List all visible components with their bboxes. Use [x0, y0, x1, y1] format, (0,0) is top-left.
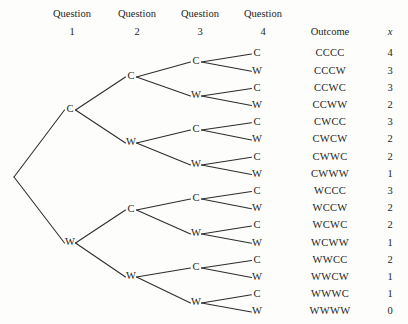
edge-l3-leaf-7 — [202, 165, 252, 174]
outcome-value: CCWW — [312, 99, 347, 110]
node-q4-9: W — [252, 202, 262, 213]
outcome-value: CCCC — [315, 47, 344, 58]
node-q4-6: C — [253, 151, 260, 162]
header-question-1: Question — [53, 8, 92, 19]
node-q3-1: W — [191, 89, 201, 100]
edge-l2-l3-4 — [137, 199, 191, 210]
edge-l2-l3-6 — [137, 268, 191, 277]
x-value: 2 — [387, 133, 392, 144]
x-value-column: 4332322132212110 — [387, 47, 393, 316]
edge-l2-l3-3 — [137, 143, 191, 165]
edge-l2-l3-5 — [137, 210, 191, 234]
edge-l3-leaf-11 — [202, 234, 252, 243]
node-q1-1: W — [65, 236, 75, 247]
node-q4-3: W — [252, 99, 262, 110]
node-q4-15: W — [252, 305, 262, 316]
node-q1-0: C — [66, 103, 73, 114]
node-q4-8: C — [253, 185, 260, 196]
edge-l3-leaf-9 — [202, 199, 252, 209]
node-q3-2: C — [192, 123, 199, 134]
edge-l1-l2-0 — [76, 77, 126, 110]
x-value: 2 — [387, 99, 392, 110]
edge-l2-l3-0 — [137, 62, 191, 77]
node-q3-7: W — [191, 296, 201, 307]
edge-root-l1-1 — [14, 177, 65, 243]
x-value: 2 — [387, 151, 392, 162]
x-value: 3 — [387, 116, 392, 127]
edge-l3-leaf-14 — [202, 295, 252, 303]
edge-l1-l2-3 — [76, 243, 126, 277]
edge-l3-leaf-10 — [202, 226, 252, 234]
edge-l2-l3-2 — [137, 130, 191, 143]
header-outcome: Outcome — [311, 26, 350, 37]
node-q3-3: W — [191, 158, 201, 169]
edge-l3-leaf-12 — [202, 260, 252, 268]
node-q3-6: C — [192, 261, 199, 272]
header-question-number-3: 3 — [197, 26, 202, 37]
x-value: 1 — [387, 237, 392, 248]
node-q4-0: C — [253, 47, 260, 58]
node-q4-14: C — [253, 288, 260, 299]
x-value: 4 — [387, 47, 393, 58]
outcome-column: CCCCCCCWCCWCCCWWCWCCCWCWCWWCCWWWWCCCWCCW… — [310, 47, 351, 316]
x-value: 3 — [387, 65, 392, 76]
x-value: 1 — [387, 168, 392, 179]
outcome-value: WCWW — [311, 237, 349, 248]
edge-l1-l2-2 — [76, 210, 126, 243]
x-value: 0 — [387, 305, 392, 316]
column-headers: Question1Question2Question3Question4Outc… — [53, 8, 393, 37]
outcome-value: WWCW — [311, 271, 349, 282]
header-question-number-1: 1 — [69, 26, 74, 37]
x-value: 2 — [387, 219, 392, 230]
node-q2-0: C — [127, 70, 134, 81]
edge-l1-l2-1 — [76, 110, 126, 143]
node-q3-4: C — [192, 192, 199, 203]
node-q4-2: C — [253, 82, 260, 93]
edge-l2-l3-1 — [137, 77, 191, 96]
node-q4-1: W — [252, 65, 262, 76]
header-question-number-4: 4 — [260, 26, 266, 37]
edge-l3-leaf-0 — [202, 54, 252, 62]
x-value: 2 — [387, 254, 392, 265]
node-q3-5: W — [191, 227, 201, 238]
node-q2-1: W — [126, 136, 136, 147]
tree-nodes: CWCWCWCWCWCWCWCWCWCWCWCWCWCWCW — [65, 47, 262, 316]
edge-l3-leaf-15 — [202, 303, 252, 312]
header-question-2: Question — [118, 8, 157, 19]
outcome-value: CWCW — [312, 133, 347, 144]
edge-l2-l3-7 — [137, 277, 191, 303]
tree-diagram-canvas: CWCWCWCWCWCWCWCWCWCWCWCWCWCWCW Question1… — [0, 0, 408, 324]
edge-l3-leaf-2 — [202, 88, 252, 96]
outcome-value: WWWW — [310, 305, 351, 316]
outcome-value: CCWC — [314, 82, 346, 93]
edge-root-l1-0 — [14, 110, 65, 177]
node-q4-11: W — [252, 237, 262, 248]
header-x: x — [387, 26, 393, 37]
node-q4-7: W — [252, 168, 262, 179]
outcome-value: WWCC — [312, 254, 347, 265]
outcome-value: WCCC — [314, 185, 346, 196]
header-question-4: Question — [244, 8, 283, 19]
tree-diagram-svg: CWCWCWCWCWCWCWCWCWCWCWCWCWCWCW Question1… — [0, 0, 408, 324]
outcome-value: WCCW — [312, 202, 347, 213]
node-q2-2: C — [127, 203, 134, 214]
outcome-value: CWWC — [312, 151, 347, 162]
node-q2-3: W — [126, 270, 136, 281]
x-value: 1 — [387, 288, 392, 299]
edge-l3-leaf-3 — [202, 96, 252, 106]
node-q4-10: C — [253, 219, 260, 230]
x-value: 2 — [387, 202, 392, 213]
x-value: 3 — [387, 185, 392, 196]
edge-l3-leaf-5 — [202, 130, 252, 140]
outcome-value: CWWW — [311, 168, 349, 179]
node-q4-5: W — [252, 133, 262, 144]
edge-l3-leaf-8 — [202, 192, 252, 199]
x-value: 1 — [387, 271, 392, 282]
edge-l3-leaf-6 — [202, 157, 252, 165]
node-q3-0: C — [192, 55, 199, 66]
node-q4-12: C — [253, 254, 260, 265]
edge-l3-leaf-13 — [202, 268, 252, 278]
header-question-3: Question — [181, 8, 220, 19]
outcome-value: WCWC — [312, 219, 347, 230]
outcome-value: CCCW — [314, 65, 346, 76]
